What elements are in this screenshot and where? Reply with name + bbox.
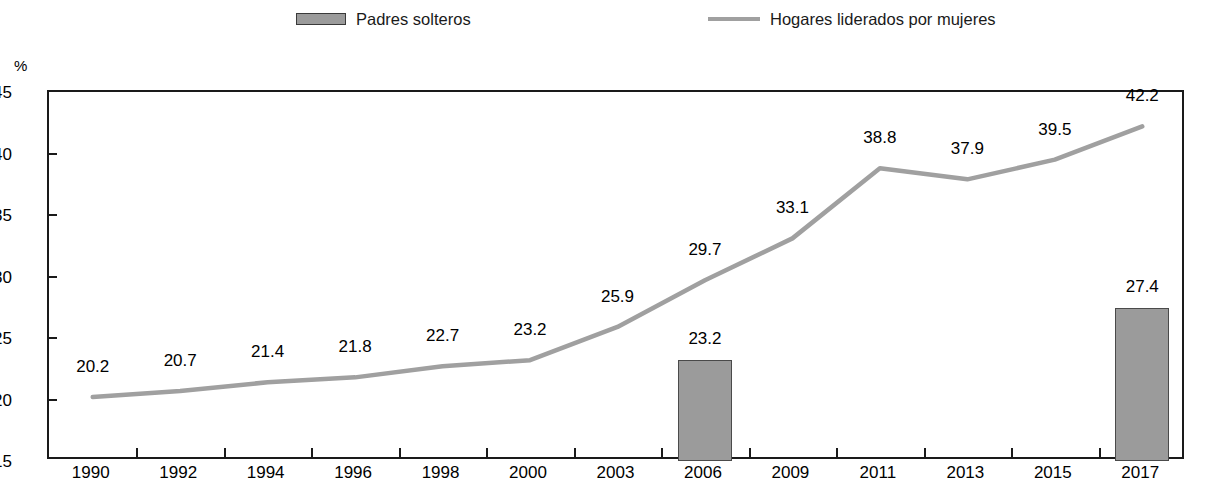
y-axis-tick-label: 20 bbox=[0, 391, 12, 411]
x-axis-tick-label: 1996 bbox=[334, 463, 372, 483]
y-axis-tick-label: 45 bbox=[0, 83, 12, 103]
bar-value-label: 27.4 bbox=[1126, 277, 1159, 297]
x-axis-tick-label: 2000 bbox=[509, 463, 547, 483]
x-axis-tick-label: 2017 bbox=[1121, 463, 1159, 483]
x-axis-tick-label: 2013 bbox=[946, 463, 984, 483]
line-value-label: 42.2 bbox=[1126, 86, 1159, 106]
line-value-label: 25.9 bbox=[601, 287, 634, 307]
line-value-label: 21.4 bbox=[251, 342, 284, 362]
y-axis-unit-label: % bbox=[14, 57, 27, 74]
line-value-label: 33.1 bbox=[776, 198, 809, 218]
legend-label-padres-solteros: Padres solteros bbox=[356, 11, 471, 27]
chart-legend: Padres solteros Hogares liderados por mu… bbox=[0, 0, 1206, 44]
chart-container: Padres solteros Hogares liderados por mu… bbox=[0, 0, 1206, 489]
line-value-label: 23.2 bbox=[513, 320, 546, 340]
bar[interactable] bbox=[678, 360, 732, 461]
x-axis-tick-label: 1990 bbox=[72, 463, 110, 483]
legend-label-hogares-liderados-por-mujeres: Hogares liderados por mujeres bbox=[770, 11, 996, 27]
plot-area: 45403530252015 20.220.721.421.822.723.22… bbox=[47, 90, 1184, 459]
x-axis-tick-label: 2006 bbox=[684, 463, 722, 483]
line-swatch-icon bbox=[708, 17, 760, 21]
line-value-label: 29.7 bbox=[688, 240, 721, 260]
x-axis-tick-label: 1994 bbox=[247, 463, 285, 483]
bar[interactable] bbox=[1115, 308, 1169, 461]
y-axis-tick-label: 25 bbox=[0, 329, 12, 349]
bar-value-label: 23.2 bbox=[688, 329, 721, 349]
y-axis-tick-label: 30 bbox=[0, 268, 12, 288]
x-axis-tick-label: 2015 bbox=[1034, 463, 1072, 483]
line-value-label: 20.7 bbox=[164, 351, 197, 371]
x-axis-tick-label: 2009 bbox=[772, 463, 810, 483]
bar-swatch-icon bbox=[296, 13, 346, 25]
line-value-label: 22.7 bbox=[426, 326, 459, 346]
line-value-label: 38.8 bbox=[863, 128, 896, 148]
line-value-label: 39.5 bbox=[1038, 120, 1071, 140]
line-value-label: 20.2 bbox=[76, 357, 109, 377]
legend-item-hogares-liderados-por-mujeres[interactable]: Hogares liderados por mujeres bbox=[708, 11, 996, 27]
legend-item-padres-solteros[interactable]: Padres solteros bbox=[296, 11, 471, 27]
y-axis-tick-label: 15 bbox=[0, 452, 12, 472]
y-axis-tick-label: 35 bbox=[0, 206, 12, 226]
line-value-label: 21.8 bbox=[339, 337, 372, 357]
line-value-label: 37.9 bbox=[951, 139, 984, 159]
y-axis-tick-label: 40 bbox=[0, 145, 12, 165]
x-axis-tick-label: 2003 bbox=[597, 463, 635, 483]
x-axis-tick-label: 1998 bbox=[422, 463, 460, 483]
x-axis-tick-label: 2011 bbox=[860, 463, 897, 483]
line-series-hogares-liderados-por-mujeres bbox=[49, 92, 1186, 461]
x-axis-tick-label: 1992 bbox=[159, 463, 197, 483]
